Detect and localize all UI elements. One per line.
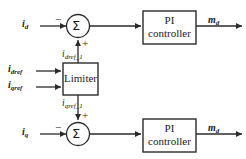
sign-minus-top: − bbox=[55, 14, 61, 25]
sigma-symbol-top: Σ bbox=[72, 19, 80, 32]
pi-controller-top-line2: controller bbox=[143, 28, 196, 39]
input-label-id-sub: d bbox=[25, 23, 29, 31]
input-label-id: id bbox=[22, 19, 28, 29]
pi-controller-bottom-label: PI controller bbox=[143, 123, 196, 147]
input-label-idref: idref bbox=[8, 64, 22, 74]
output-label-md-bottom-base: m bbox=[208, 122, 216, 133]
sigma-symbol-bottom: Σ bbox=[72, 127, 80, 140]
signal-label-iqref-1: iqref_1 bbox=[62, 99, 83, 109]
output-label-md-top-base: m bbox=[208, 14, 216, 25]
pi-controller-bottom-line2: controller bbox=[143, 136, 196, 147]
signal-label-iqref-1-sub: qref_1 bbox=[65, 102, 83, 110]
pi-controller-top-line1: PI bbox=[143, 15, 196, 26]
limiter-block-label: Limiter bbox=[63, 73, 98, 84]
block-diagram: id − Σ + PI controller md idref_1 idref … bbox=[0, 0, 246, 159]
input-label-iqref: iqref bbox=[8, 80, 22, 90]
pi-controller-bottom-line1: PI bbox=[143, 123, 196, 134]
output-label-md-top: md bbox=[208, 15, 219, 25]
pi-controller-top-label: PI controller bbox=[143, 15, 196, 39]
output-label-md-bottom-sub: d bbox=[216, 127, 220, 135]
sign-plus-top: + bbox=[82, 38, 88, 49]
input-label-idref-sub: dref bbox=[11, 68, 23, 76]
input-label-iq-sub: q bbox=[25, 131, 29, 139]
signal-label-idref-1-sub: dref_1 bbox=[65, 53, 83, 61]
input-label-iq: iq bbox=[22, 127, 28, 137]
output-label-md-top-sub: d bbox=[216, 19, 220, 27]
sign-minus-bottom: − bbox=[55, 122, 61, 133]
signal-label-idref-1: idref_1 bbox=[62, 50, 83, 60]
input-label-iqref-sub: qref bbox=[11, 84, 23, 92]
sign-plus-bottom: + bbox=[82, 110, 88, 121]
output-label-md-bottom: md bbox=[208, 123, 219, 133]
